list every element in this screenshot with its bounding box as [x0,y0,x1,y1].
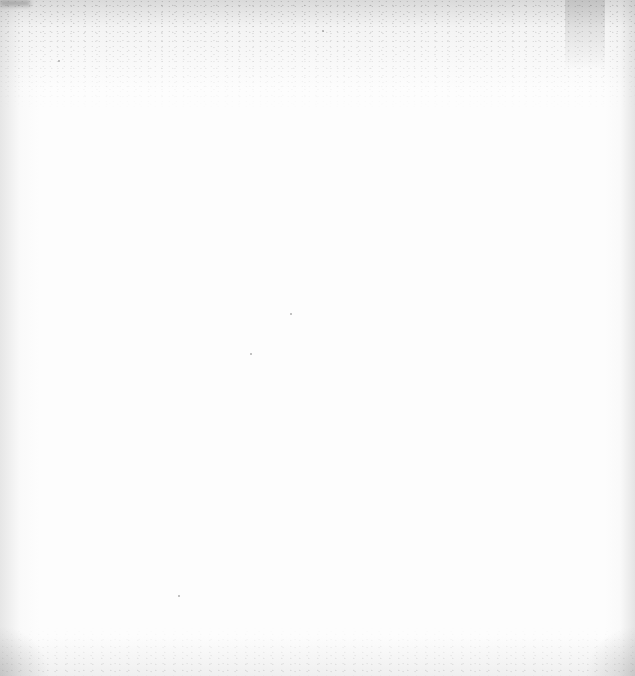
dust-speck [178,595,180,597]
dust-speck [290,313,292,315]
blank-page [0,0,635,676]
dust-speck [250,353,252,355]
scan-noise-top [0,0,635,110]
dust-speck [58,60,60,62]
scan-noise-bottom [0,626,635,676]
dust-speck [322,30,324,32]
